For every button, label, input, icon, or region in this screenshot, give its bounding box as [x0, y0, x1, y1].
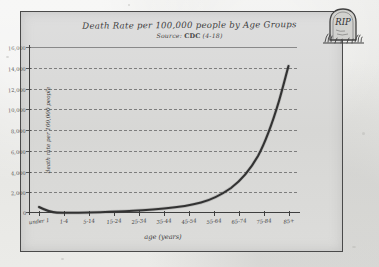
y-tick-label: 2,000 — [11, 190, 26, 196]
paper-speck — [6, 56, 9, 58]
y-tick-label: 12,000 — [8, 86, 26, 92]
paper-speck — [128, 4, 130, 6]
subtitle-suffix: (4-18) — [200, 32, 222, 39]
paper-speck — [362, 132, 365, 135]
y-tick-label: 10,000 — [8, 107, 26, 113]
y-tick-label: 14,000 — [8, 66, 26, 72]
y-tick-label: 6,000 — [11, 149, 26, 155]
death-rate-curve — [29, 47, 297, 213]
x-tick-label: 1-4 — [59, 218, 68, 225]
y-axis-label: death rate per 100,000 people — [45, 87, 51, 173]
y-tick-label: 8,000 — [11, 128, 26, 134]
subtitle-prefix: Source: — [156, 32, 184, 39]
y-tick-label: 16,000 — [8, 45, 26, 51]
paper-speck — [61, 258, 64, 260]
tombstone-rip-icon: RIP — [321, 6, 365, 46]
paper-speck — [352, 246, 356, 248]
plot-area: 16,000 14,000 12,000 10,000 8,000 6,000 … — [29, 47, 297, 213]
x-axis-label: age (years) — [29, 233, 297, 241]
subtitle-source: CDC — [184, 32, 200, 40]
tombstone-label: RIP — [334, 17, 351, 27]
y-tick-label: 4,000 — [11, 169, 26, 175]
y-tick-label: 0 — [23, 210, 26, 216]
